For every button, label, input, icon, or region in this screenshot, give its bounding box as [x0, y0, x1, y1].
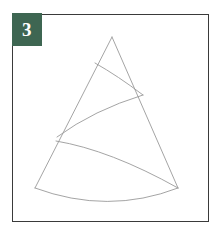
- cone-right-edge-line: [112, 37, 178, 188]
- step-number-badge-label: 3: [22, 20, 32, 39]
- middle-arc-path: [57, 95, 143, 137]
- cone-left-edge-line: [35, 37, 112, 188]
- instruction-step-panel: 3: [0, 0, 222, 234]
- upper-arc-path: [95, 63, 143, 95]
- step-number-badge: 3: [12, 13, 42, 46]
- cone-outline: [35, 37, 178, 202]
- lower-arc-path: [56, 141, 178, 188]
- base-arc-path: [35, 188, 178, 202]
